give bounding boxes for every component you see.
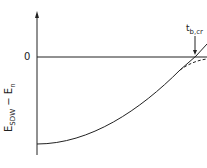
y-axis-arrow-icon — [35, 11, 39, 18]
critical-label-sub: b,cr — [190, 28, 203, 36]
y-label-sub2: n — [9, 83, 17, 87]
y-label-dash: − — [3, 94, 14, 109]
zero-label: 0 — [24, 52, 30, 62]
y-axis-label: ESDW − En — [4, 83, 17, 132]
critical-arrow-head-icon — [193, 50, 197, 55]
diagram-canvas — [0, 0, 207, 168]
y-label-e2: E — [3, 88, 14, 94]
energy-curve-dashed — [180, 59, 207, 70]
y-label-e1: E — [3, 126, 14, 132]
critical-time-label: tb,cr — [186, 24, 203, 36]
energy-curve-solid — [37, 44, 207, 144]
y-label-sub1: SDW — [9, 109, 17, 126]
